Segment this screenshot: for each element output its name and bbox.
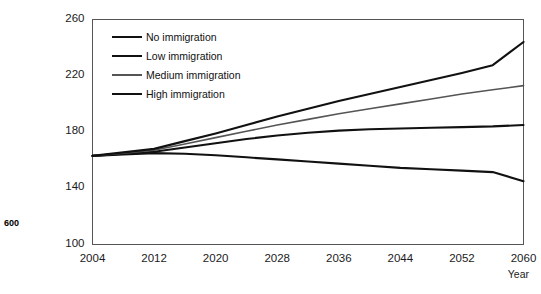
x-tick-2036: 2036 <box>317 252 361 264</box>
side-note-600: 600 <box>4 218 19 228</box>
y-tick-220: 220 <box>51 68 85 80</box>
series-line-no-immigration <box>93 153 524 181</box>
legend-label: High immigration <box>146 88 225 100</box>
legend-line-swatch <box>112 93 142 95</box>
x-axis-title: Year <box>508 268 529 280</box>
x-tick-2012: 2012 <box>132 252 176 264</box>
x-tick-2004: 2004 <box>71 252 115 264</box>
x-tick-2052: 2052 <box>440 252 484 264</box>
legend-item-low-immigration: Low immigration <box>112 46 282 65</box>
x-tick-2020: 2020 <box>194 252 238 264</box>
chart-legend: No immigrationLow immigrationMedium immi… <box>112 27 282 103</box>
legend-label: Medium immigration <box>146 69 241 81</box>
legend-label: No immigration <box>146 31 217 43</box>
legend-line-swatch <box>112 74 142 76</box>
y-tick-180: 180 <box>51 124 85 136</box>
legend-item-no-immigration: No immigration <box>112 27 282 46</box>
x-tick-2060: 2060 <box>502 252 541 264</box>
y-tick-100: 100 <box>51 237 85 249</box>
legend-item-high-immigration: High immigration <box>112 84 282 103</box>
x-tick-2028: 2028 <box>255 252 299 264</box>
legend-label: Low immigration <box>146 50 222 62</box>
y-tick-140: 140 <box>51 180 85 192</box>
legend-line-swatch <box>112 55 142 57</box>
legend-item-medium-immigration: Medium immigration <box>112 65 282 84</box>
x-tick-2044: 2044 <box>378 252 422 264</box>
y-tick-260: 260 <box>51 12 85 24</box>
series-line-low-immigration <box>93 125 524 156</box>
legend-line-swatch <box>112 36 142 38</box>
